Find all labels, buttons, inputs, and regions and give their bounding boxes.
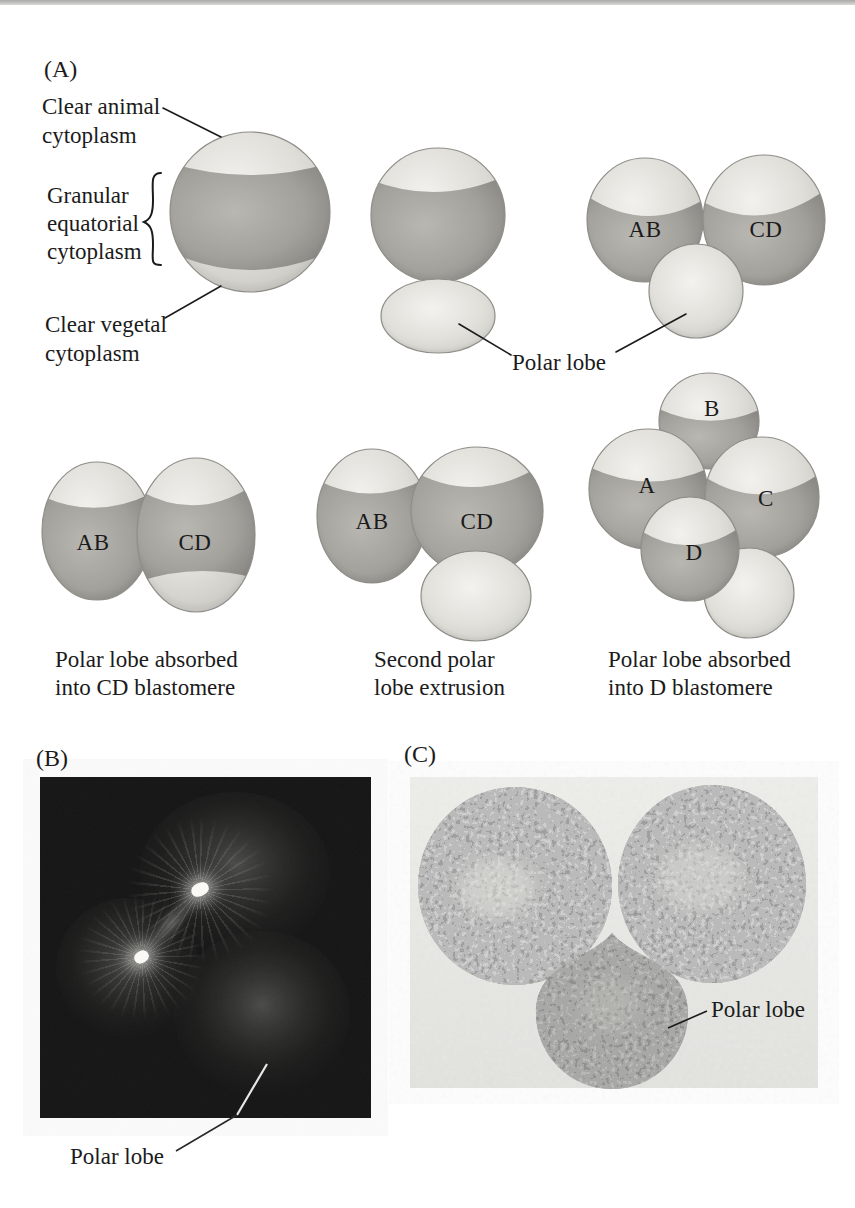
first-lobe-extrusion-shape <box>371 148 505 353</box>
leader-clear-animal <box>163 108 221 137</box>
second-lobe-stage-shape <box>317 447 543 641</box>
caption-absorbed-d-line2: into D blastomere <box>608 673 773 702</box>
blastomere-label-c: C <box>726 484 806 513</box>
granular-label-line3: cytoplasm <box>47 237 142 266</box>
blastomere-label-d: D <box>654 538 734 567</box>
polar-lobe-label-b: Polar lobe <box>70 1142 164 1171</box>
leader-clear-vegetal <box>165 286 221 318</box>
polar-lobe-label-c: Polar lobe <box>711 995 805 1024</box>
panel-a-label: (A) <box>44 55 77 84</box>
clear-animal-label-line1: Clear animal <box>42 92 160 121</box>
egg-cell-shape <box>170 132 330 292</box>
clear-animal-label-line2: cytoplasm <box>42 121 137 150</box>
blastomere-label-cd: CD <box>155 528 235 557</box>
textbook-figure-page: (A) Clear animal cytoplasm Granular equa… <box>0 0 855 1208</box>
panel-c-label: (C) <box>404 740 436 769</box>
caption-second-lobe-line1: Second polar <box>374 645 495 674</box>
trefoil-stage-shape <box>587 155 825 338</box>
blastomere-label-ab: AB <box>605 215 685 244</box>
blastomere-label-ab: AB <box>332 507 412 536</box>
caption-second-lobe-line2: lobe extrusion <box>374 673 505 702</box>
blastomere-label-b: B <box>672 394 752 423</box>
polar-lobe-shape <box>421 551 531 641</box>
panel-c-micrograph <box>410 777 818 1089</box>
blastomere-label-cd: CD <box>437 507 517 536</box>
clear-vegetal-label-line1: Clear vegetal <box>45 310 167 339</box>
blastomere-label-ab: AB <box>53 528 133 557</box>
leader-polar-lobe-b-outer <box>176 1115 237 1151</box>
granular-brace <box>144 173 161 265</box>
granular-label-line1: Granular <box>47 181 129 210</box>
caption-absorbed-cd-line2: into CD blastomere <box>55 673 235 702</box>
polar-lobe-label-row1: Polar lobe <box>512 348 606 377</box>
caption-absorbed-d-line1: Polar lobe absorbed <box>608 645 791 674</box>
polar-lobe-shape <box>381 279 495 353</box>
blastomere-label-a: A <box>607 471 687 500</box>
panel-b-label: (B) <box>36 744 68 773</box>
clear-vegetal-label-line2: cytoplasm <box>45 339 140 368</box>
granular-label-line2: equatorial <box>47 209 139 238</box>
caption-absorbed-cd-line1: Polar lobe absorbed <box>55 645 238 674</box>
polar-lobe-shape <box>649 244 743 338</box>
blastomere-label-cd: CD <box>726 215 806 244</box>
